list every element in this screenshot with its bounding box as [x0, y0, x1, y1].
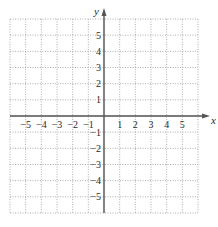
- x-tick-label: −4: [36, 119, 47, 130]
- x-tick-label: 4: [164, 119, 169, 130]
- axes: [10, 8, 210, 213]
- y-tick-label: −4: [90, 175, 101, 186]
- x-tick-label: 3: [149, 119, 154, 130]
- y-axis-arrow-icon: [102, 8, 107, 16]
- x-tick-label: −5: [20, 119, 31, 130]
- y-tick-label: −3: [90, 159, 101, 170]
- y-axis-label: y: [93, 5, 99, 17]
- x-tick-label: 2: [133, 119, 138, 130]
- x-tick-label: 5: [180, 119, 185, 130]
- y-tick-label: 2: [96, 78, 101, 89]
- y-tick-label: 3: [96, 62, 101, 73]
- y-tick-label: −2: [90, 143, 101, 154]
- y-tick-label: 4: [96, 46, 101, 57]
- x-axis-label: x: [210, 114, 216, 126]
- x-tick-label: −2: [67, 119, 78, 130]
- x-tick-label: 1: [117, 119, 122, 130]
- y-tick-label: −5: [90, 191, 101, 202]
- x-tick-label: −3: [52, 119, 63, 130]
- y-tick-label: 5: [96, 30, 101, 41]
- y-tick-label: 1: [96, 94, 101, 105]
- y-tick-label: −1: [90, 127, 101, 138]
- coordinate-plane: −5−4−3−2−11234554321−1−2−3−4−5 x y: [0, 0, 218, 227]
- x-axis-arrow-icon: [202, 114, 210, 119]
